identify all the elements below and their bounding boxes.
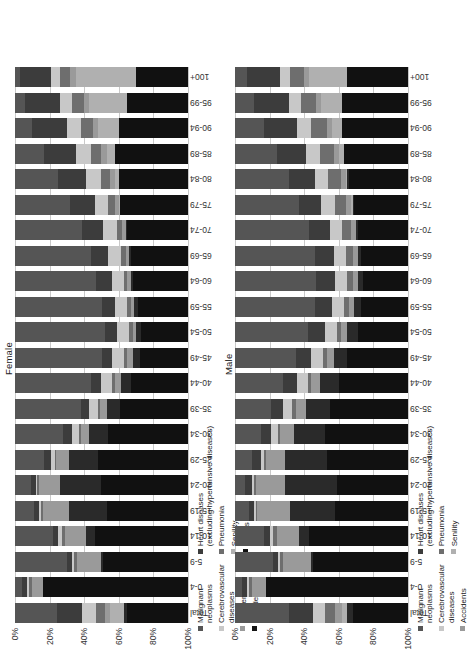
bar-70-74[interactable] xyxy=(235,220,408,240)
segment xyxy=(299,526,309,546)
bar-90-94[interactable] xyxy=(235,118,408,138)
segment xyxy=(235,373,283,393)
bar-75-79[interactable] xyxy=(235,195,408,215)
bar-10-14[interactable] xyxy=(15,526,188,546)
y-tick-label: 0% xyxy=(230,628,240,640)
segment xyxy=(15,322,105,342)
segment xyxy=(15,475,31,495)
bar-65-69[interactable] xyxy=(235,246,408,266)
bar-55-59[interactable] xyxy=(15,297,188,317)
segment xyxy=(131,373,188,393)
bar-85-89[interactable] xyxy=(235,144,408,164)
legend-item[interactable]: Malignant neoplasms xyxy=(416,564,434,631)
bar-25-29[interactable] xyxy=(235,450,408,470)
bar-100+[interactable] xyxy=(15,67,188,87)
bar-50-54[interactable] xyxy=(15,322,188,342)
bar-15-19[interactable] xyxy=(235,501,408,521)
segment xyxy=(107,501,188,521)
bar-35-39[interactable] xyxy=(235,399,408,419)
bar-10-14[interactable] xyxy=(235,526,408,546)
segment xyxy=(308,322,325,342)
bar-55-59[interactable] xyxy=(235,297,408,317)
x-tick-label: 90-94 xyxy=(410,123,432,133)
segment xyxy=(235,220,309,240)
segment xyxy=(289,603,313,623)
bar-5-9[interactable] xyxy=(235,552,408,572)
segment xyxy=(361,246,408,266)
bar-95-99[interactable] xyxy=(15,93,188,113)
segment xyxy=(91,144,101,164)
segment xyxy=(15,399,81,419)
bar-Total[interactable] xyxy=(235,603,408,623)
segment xyxy=(15,93,25,113)
x-tick-label: 45-49 xyxy=(190,353,212,363)
bar-35-39[interactable] xyxy=(15,399,188,419)
segment xyxy=(309,526,408,546)
bar-30-34[interactable] xyxy=(235,424,408,444)
bar-20-24[interactable] xyxy=(15,475,188,495)
legend-item[interactable]: Heart diseases (excluding hypertensive d… xyxy=(416,426,434,555)
x-tick: 100+ xyxy=(408,67,454,87)
legend-item[interactable]: Heart diseases (excluding hypertensive d… xyxy=(196,426,214,555)
segment xyxy=(15,603,57,623)
bar-95-99[interactable] xyxy=(235,93,408,113)
x-tick-label: 95-99 xyxy=(190,98,212,108)
bar-80-84[interactable] xyxy=(15,169,188,189)
bar-45-49[interactable] xyxy=(15,348,188,368)
segment xyxy=(103,552,188,572)
segment xyxy=(313,603,325,623)
bar-75-79[interactable] xyxy=(15,195,188,215)
bar-5-9[interactable] xyxy=(15,552,188,572)
legend-item[interactable]: Malignant neoplasms xyxy=(196,564,214,631)
x-tick-label: 35-39 xyxy=(410,404,432,414)
segment xyxy=(76,67,137,87)
legend-label: Malignant neoplasms xyxy=(416,584,434,623)
segment xyxy=(15,220,82,240)
bar-80-84[interactable] xyxy=(235,169,408,189)
y-tick-label: 60% xyxy=(114,628,124,645)
bar-15-19[interactable] xyxy=(15,501,188,521)
bar-85-89[interactable] xyxy=(15,144,188,164)
segment xyxy=(15,526,53,546)
bar-30-34[interactable] xyxy=(15,424,188,444)
segment xyxy=(96,603,105,623)
segment xyxy=(120,399,187,419)
bar-70-74[interactable] xyxy=(15,220,188,240)
segment xyxy=(235,246,315,266)
bar-45-49[interactable] xyxy=(235,348,408,368)
bar-60-64[interactable] xyxy=(235,271,408,291)
segment xyxy=(247,67,280,87)
segment xyxy=(60,93,72,113)
segment xyxy=(107,144,116,164)
bar-20-24[interactable] xyxy=(235,475,408,495)
segment xyxy=(112,348,124,368)
legend-column: Heart diseases (excluding hypertensive d… xyxy=(416,426,468,555)
segment xyxy=(299,195,321,215)
y-axis-female: 0%20%40%60%80%100% xyxy=(15,625,188,667)
bar-60-64[interactable] xyxy=(15,271,188,291)
legend-item[interactable]: Cerebrovascular diseases xyxy=(437,564,455,631)
legend-item[interactable]: Accidents xyxy=(459,564,468,631)
bar-100+[interactable] xyxy=(235,67,408,87)
segment xyxy=(108,195,115,215)
bar-50-54[interactable] xyxy=(235,322,408,342)
bar-65-69[interactable] xyxy=(15,246,188,266)
segment xyxy=(43,577,188,597)
legend-item[interactable]: Pneumonia xyxy=(437,426,446,555)
bar-0-4[interactable] xyxy=(15,577,188,597)
bar-40-44[interactable] xyxy=(235,373,408,393)
legend-swatch-icon xyxy=(439,626,444,631)
segment xyxy=(320,373,339,393)
segment xyxy=(69,450,98,470)
legend-item[interactable]: Senility xyxy=(450,426,459,555)
bar-40-44[interactable] xyxy=(15,373,188,393)
bar-90-94[interactable] xyxy=(15,118,188,138)
bar-Total[interactable] xyxy=(15,603,188,623)
segment xyxy=(81,399,90,419)
bar-25-29[interactable] xyxy=(15,450,188,470)
panel-title-male: Male xyxy=(223,354,234,375)
bar-0-4[interactable] xyxy=(235,577,408,597)
segment xyxy=(89,93,127,113)
segment xyxy=(309,67,347,87)
segment xyxy=(141,322,188,342)
